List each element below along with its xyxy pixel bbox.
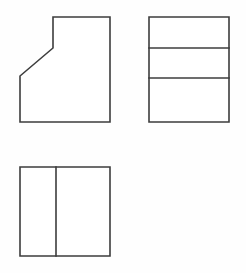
- right-side-view-outline: [149, 17, 229, 122]
- drawing-sheet: [0, 0, 246, 273]
- front-view-outline: [20, 17, 110, 122]
- front-view: [20, 17, 110, 122]
- right-side-view: [149, 17, 229, 122]
- multiview-drawing-canvas: [0, 0, 246, 273]
- top-view: [20, 167, 110, 256]
- top-view-outline: [20, 167, 110, 256]
